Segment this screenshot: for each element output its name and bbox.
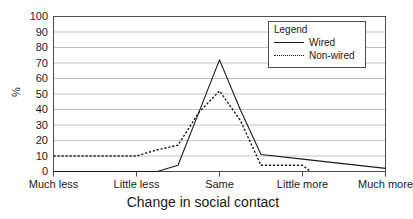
y-tick-label: 10 [16,151,48,162]
x-tick-label: Little less [114,178,160,190]
data-series [54,60,386,172]
y-tick-label: 20 [16,135,48,146]
x-tick-label: Much less [29,178,79,190]
y-tick-label: 0 [16,166,48,177]
y-tick-label: 70 [16,58,48,69]
y-axis-title: % [10,72,22,112]
legend-title: Legend [274,24,365,36]
legend-line-solid-icon [274,38,304,48]
y-tick-label: 80 [16,42,48,53]
legend-label: Non-wired [309,50,355,62]
x-tick-label: Same [205,178,234,190]
y-tick-label: 100 [16,11,48,22]
legend-item-non-wired: Non-wired [274,49,365,62]
legend-line-dotted-icon [274,51,304,61]
series-line-non-wired [54,91,311,172]
x-axis-ticks [54,172,386,177]
y-tick-label: 30 [16,120,48,131]
x-tick-label: Little more [277,178,328,190]
legend-item-wired: Wired [274,36,365,49]
x-axis-title: Change in social contact [0,194,406,210]
series-line-wired [54,60,386,172]
legend: Legend Wired Non-wired [268,21,366,68]
y-tick-label: 90 [16,27,48,38]
x-tick-label: Much more [358,178,413,190]
legend-label: Wired [309,37,335,49]
